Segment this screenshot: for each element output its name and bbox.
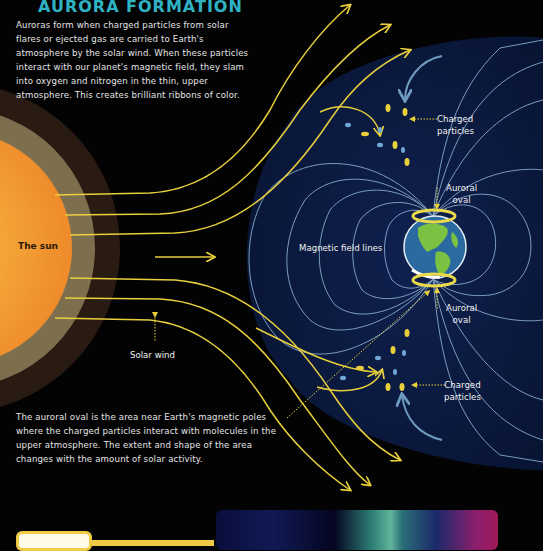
label-the-sun: The sun [18, 241, 58, 251]
magnetosphere [247, 37, 543, 470]
earth [404, 216, 466, 278]
label-text-line: particles [437, 125, 474, 137]
label-charged-particles-bottom: Charged particles [444, 379, 481, 403]
label-magnetic-field-lines: Magnetic field lines [299, 242, 382, 254]
auroral-oval-caption: The auroral oval is the area near Earth'… [16, 410, 286, 466]
label-text-line: oval [446, 314, 477, 326]
label-auroral-oval-bottom: Auroral oval [446, 302, 477, 326]
label-auroral-oval-top: Auroral oval [446, 182, 477, 206]
label-text-line: Charged [437, 113, 474, 125]
intro-paragraph: Auroras form when charged particles from… [16, 18, 256, 102]
label-text-line: oval [446, 194, 477, 206]
label-charged-particles-top: Charged particles [437, 113, 474, 137]
label-solar-wind: Solar wind [130, 349, 175, 361]
label-text-line: Auroral [446, 182, 477, 194]
next-section-tab [16, 531, 92, 551]
next-section-bar [92, 540, 214, 546]
page-title: AURORA FORMATION [38, 0, 238, 16]
label-text-line: Auroral [446, 302, 477, 314]
label-text-line: Charged [444, 379, 481, 391]
label-text-line: particles [444, 391, 481, 403]
aurora-photo [216, 510, 498, 550]
